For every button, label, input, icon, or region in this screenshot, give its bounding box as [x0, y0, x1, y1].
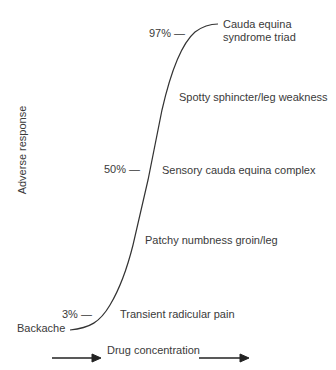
x-arrow-right: [199, 354, 249, 362]
tick-97: 97% —: [149, 27, 185, 40]
label-cauda-1: Cauda equina: [223, 18, 292, 31]
x-axis-label: Drug concentration: [107, 344, 200, 356]
label-sensory: Sensory cauda equina complex: [162, 164, 315, 177]
label-cauda-2: syndrome triad: [223, 31, 296, 44]
y-axis-label: Adverse response: [16, 106, 28, 195]
x-arrow-left: [52, 354, 101, 362]
label-spotty: Spotty sphincter/leg weakness: [179, 91, 328, 104]
label-backache: Backache: [17, 322, 65, 335]
tick-3: 3% —: [62, 308, 92, 321]
sigmoid-curve: [70, 24, 218, 330]
label-patchy: Patchy numbness groin/leg: [145, 234, 278, 247]
tick-50: 50% —: [104, 163, 140, 176]
label-transient: Transient radicular pain: [120, 308, 235, 321]
